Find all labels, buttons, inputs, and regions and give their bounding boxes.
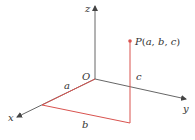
z-axis-label: z	[84, 3, 91, 14]
segment-a-label: a	[64, 80, 70, 91]
coordinate-diagram: z y x O a b c P(a, b, c)	[0, 0, 195, 140]
y-axis-label: y	[182, 103, 189, 114]
origin-label: O	[82, 71, 90, 82]
point-p-label: P(a, b, c)	[134, 36, 180, 47]
segment-c-label: c	[136, 71, 142, 82]
segment-b-label: b	[82, 119, 88, 130]
point-p	[128, 39, 132, 43]
x-axis-label: x	[8, 112, 14, 123]
y-axis	[95, 79, 186, 99]
